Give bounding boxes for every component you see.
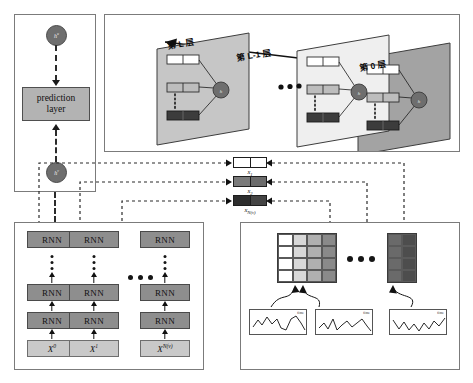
rnn-cell-top: RNN bbox=[69, 231, 119, 248]
waveform-connectors bbox=[241, 223, 459, 369]
rnn-arrow-a bbox=[49, 272, 55, 277]
prediction-layer-line2: layer bbox=[47, 104, 66, 115]
waveform-box-n: time bbox=[389, 309, 447, 335]
rnn-input-box: XN(v) bbox=[140, 340, 190, 357]
waveform-path-2 bbox=[316, 310, 373, 335]
waveform-path-n bbox=[390, 310, 447, 335]
rnn-input-box: X1 bbox=[69, 340, 119, 357]
rnn-column-1: RNN RNN RNN X1 bbox=[69, 223, 119, 369]
rnn-stem-a bbox=[164, 276, 165, 283]
prediction-layer-box: prediction layer bbox=[22, 87, 90, 121]
arrowhead-down-to-prediction bbox=[52, 80, 60, 86]
rnn-cell-bottom: RNN bbox=[140, 312, 190, 329]
rnn-arrow-b bbox=[162, 301, 168, 306]
rnn-cell-top: RNN bbox=[140, 231, 190, 248]
rnn-panel: RNN RNN RNN X0 RNN bbox=[14, 222, 204, 370]
rnn-arrow-c bbox=[162, 329, 168, 334]
dashed-connector-bottom bbox=[55, 130, 57, 162]
output-node-hu: hu bbox=[46, 25, 67, 46]
rnn-arrow-a bbox=[162, 272, 168, 277]
prediction-panel: hu prediction layer hv bbox=[14, 14, 96, 192]
rnn-stem-a bbox=[93, 276, 94, 283]
x-vector-1 bbox=[233, 157, 267, 168]
diagram-canvas: hu prediction layer hv bbox=[0, 0, 473, 383]
input-node-label: hv bbox=[54, 170, 59, 176]
rnn-arrow-c bbox=[49, 329, 55, 334]
rnn-arrow-b bbox=[91, 301, 97, 306]
prediction-layer-line1: prediction bbox=[37, 93, 76, 104]
rnn-input-label: XN(v) bbox=[157, 343, 172, 354]
rnn-vertical-ellipsis bbox=[51, 255, 54, 270]
output-node-label: hu bbox=[54, 33, 59, 39]
layers-panel: h h bbox=[104, 14, 460, 152]
layer-planes-svg: h h bbox=[105, 15, 459, 151]
dashed-connector-top bbox=[55, 45, 57, 81]
waveform-path-1 bbox=[250, 310, 307, 335]
rnn-input-label: X0 bbox=[48, 343, 56, 354]
dash-path-x2-right bbox=[272, 182, 367, 225]
rnn-arrow-a bbox=[91, 272, 97, 277]
rnn-vertical-ellipsis bbox=[93, 255, 96, 270]
rnn-cell-bottom: RNN bbox=[69, 312, 119, 329]
waveform-box-1: time bbox=[249, 309, 307, 335]
rnn-column-n: RNN RNN RNN XN(v) bbox=[140, 223, 190, 369]
rnn-stem-a bbox=[51, 276, 52, 283]
rnn-arrow-b bbox=[49, 301, 55, 306]
waveform-box-2: time bbox=[315, 309, 373, 335]
dashed-connector-prediction-to-rnn bbox=[54, 192, 56, 222]
rnn-cell-mid: RNN bbox=[69, 284, 119, 301]
rnn-vertical-ellipsis bbox=[164, 255, 167, 270]
x-vector-n-label: xN(v) bbox=[231, 206, 269, 215]
rnn-cell-mid: RNN bbox=[140, 284, 190, 301]
rnn-arrow-c bbox=[91, 329, 97, 334]
x-vector-2 bbox=[233, 176, 267, 187]
rnn-input-label: X1 bbox=[90, 343, 98, 354]
x-vector-n bbox=[233, 195, 267, 206]
dash-path-x1-right bbox=[272, 163, 404, 225]
matrix-panel: time time time bbox=[240, 222, 460, 370]
input-node-hv: hv bbox=[46, 162, 67, 183]
